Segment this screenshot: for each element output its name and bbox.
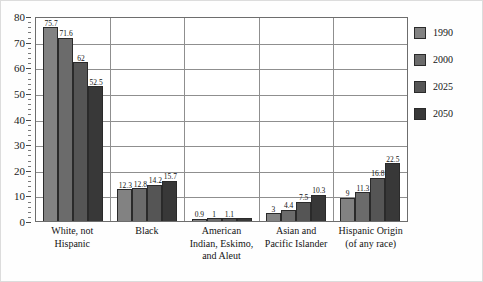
y-minor-tick — [28, 161, 31, 162]
bar-value-label: 1.1 — [225, 211, 234, 220]
bar-group: 911.316.822.5 — [333, 18, 407, 221]
bar[interactable]: 52.5 — [88, 86, 103, 221]
bar[interactable]: 75.7 — [43, 27, 58, 221]
group-bars: 0.911.1 — [184, 18, 258, 221]
y-minor-tick — [28, 181, 31, 182]
y-major-tick — [26, 171, 31, 172]
y-minor-tick — [28, 22, 31, 23]
x-axis-label-line: White, not — [36, 225, 109, 238]
y-minor-tick — [28, 89, 31, 90]
y-minor-tick — [28, 207, 31, 208]
y-minor-tick — [28, 166, 31, 167]
x-axis-label-line: Indian, Eskimo, — [185, 238, 258, 251]
bar[interactable]: 4.4 — [281, 210, 296, 221]
y-minor-tick — [28, 130, 31, 131]
bar[interactable]: 15.7 — [162, 181, 177, 221]
x-axis-label-line: Hispanic Origin — [334, 225, 407, 238]
bar-value-label: 0.9 — [195, 211, 204, 220]
legend-color-swatch — [414, 81, 426, 93]
x-axis-label-line: Black — [111, 225, 184, 238]
y-minor-tick — [28, 84, 31, 85]
x-axis-label: AmericanIndian, Eskimo,and Aleut — [184, 225, 259, 263]
y-minor-tick — [28, 135, 31, 136]
bar-value-label: 52.5 — [90, 79, 103, 88]
y-minor-tick — [28, 79, 31, 80]
chart-legend: 1990200020252050 — [414, 19, 480, 127]
y-minor-tick — [28, 58, 31, 59]
x-axis-label-line: (of any race) — [334, 238, 407, 251]
y-tick-label: 30 — [14, 140, 25, 151]
bar[interactable] — [237, 218, 252, 221]
y-major-tick — [26, 17, 31, 18]
y-tick-label: 10 — [14, 191, 25, 202]
y-tick-label: 50 — [14, 88, 25, 99]
y-tick-label: 40 — [14, 114, 25, 125]
legend-item[interactable]: 2025 — [414, 73, 480, 100]
bar[interactable]: 9 — [340, 198, 355, 221]
bar[interactable]: 1.1 — [222, 218, 237, 221]
bar[interactable]: 11.3 — [355, 192, 370, 221]
y-major-tick — [26, 222, 31, 223]
bar[interactable]: 7.5 — [296, 202, 311, 221]
plot-area: 75.771.66252.512.312.814.215.70.911.134.… — [35, 17, 408, 222]
bar-value-label: 11.3 — [356, 185, 369, 194]
y-minor-tick — [28, 48, 31, 49]
bar[interactable]: 14.2 — [147, 185, 162, 221]
legend-item[interactable]: 2000 — [414, 46, 480, 73]
y-minor-tick — [28, 73, 31, 74]
y-tick-label: 0 — [20, 217, 26, 228]
legend-label: 2025 — [433, 82, 453, 92]
y-minor-tick — [28, 114, 31, 115]
bar[interactable]: 0.9 — [192, 219, 207, 221]
bar[interactable]: 22.5 — [385, 163, 400, 221]
group-bars: 34.47.510.3 — [259, 18, 333, 221]
bar-value-label: 1 — [212, 211, 216, 220]
y-minor-tick — [28, 104, 31, 105]
y-minor-tick — [28, 109, 31, 110]
legend-item[interactable]: 2050 — [414, 100, 480, 127]
bar-group: 0.911.1 — [184, 18, 258, 221]
y-minor-tick — [28, 150, 31, 151]
y-minor-tick — [28, 212, 31, 213]
bar[interactable]: 12.8 — [132, 188, 147, 221]
bar[interactable]: 12.3 — [117, 189, 132, 221]
y-minor-tick — [28, 53, 31, 54]
group-bars: 75.771.66252.5 — [36, 18, 110, 221]
plot-wrapper: 75.771.66252.512.312.814.215.70.911.134.… — [35, 17, 408, 222]
bar[interactable]: 62 — [73, 62, 88, 221]
y-minor-tick — [28, 191, 31, 192]
y-minor-tick — [28, 140, 31, 141]
bar[interactable]: 71.6 — [58, 38, 73, 221]
x-axis-label-line: and Aleut — [185, 250, 258, 263]
y-major-tick — [26, 120, 31, 121]
bar-value-label: 12.8 — [134, 181, 147, 190]
y-minor-tick — [28, 155, 31, 156]
legend-item[interactable]: 1990 — [414, 19, 480, 46]
bar-value-label: 4.4 — [284, 202, 293, 211]
legend-color-swatch — [414, 108, 426, 120]
bar-value-label: 12.3 — [119, 182, 132, 191]
x-axis-label: Asian andPacific Islander — [259, 225, 334, 263]
bar-value-label: 15.7 — [164, 173, 177, 182]
x-axis-category-labels: White, notHispanicBlackAmericanIndian, E… — [35, 225, 408, 263]
x-axis-label-line: Hispanic — [36, 238, 109, 251]
y-major-tick — [26, 196, 31, 197]
y-axis: 01020304050607080 — [1, 17, 31, 222]
bar-groups: 75.771.66252.512.312.814.215.70.911.134.… — [36, 18, 407, 221]
x-axis-label: White, notHispanic — [35, 225, 110, 263]
y-minor-tick — [28, 32, 31, 33]
bar[interactable]: 16.8 — [370, 178, 385, 221]
bar-value-label: 75.7 — [45, 20, 58, 29]
bar[interactable]: 10.3 — [311, 195, 326, 221]
x-axis-label-line: Asian and — [260, 225, 333, 238]
y-major-tick — [26, 68, 31, 69]
bar[interactable]: 1 — [207, 218, 222, 221]
y-tick-label: 70 — [14, 37, 25, 48]
bar-value-label: 10.3 — [312, 187, 325, 196]
bar-value-label: 16.8 — [371, 170, 384, 179]
y-minor-tick — [28, 217, 31, 218]
y-minor-tick — [28, 202, 31, 203]
y-major-tick — [26, 145, 31, 146]
bar[interactable]: 3 — [266, 213, 281, 221]
bar-value-label: 14.2 — [149, 177, 162, 186]
